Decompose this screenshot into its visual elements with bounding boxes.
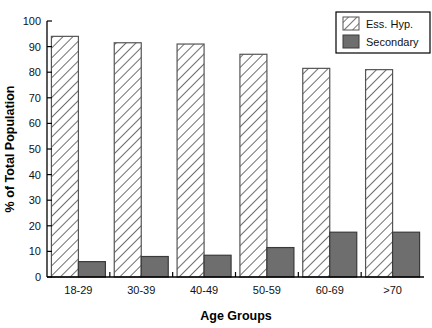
bar-secondary xyxy=(204,255,231,277)
bar-ess-hyp xyxy=(114,43,141,277)
bar-chart: 0102030405060708090100 18-2930-3940-4950… xyxy=(0,0,432,328)
y-tick-label: 100 xyxy=(23,15,41,27)
x-tick-label: 40-49 xyxy=(190,284,218,296)
y-axis-title: % of Total Population xyxy=(3,86,17,213)
bar-secondary xyxy=(330,232,357,277)
bar-ess-hyp xyxy=(51,36,78,277)
bar-secondary xyxy=(78,262,105,277)
y-tick-label: 90 xyxy=(29,41,41,53)
bar-ess-hyp xyxy=(240,54,267,277)
y-tick-label: 0 xyxy=(35,271,41,283)
x-axis-title: Age Groups xyxy=(200,309,272,323)
y-tick-label: 60 xyxy=(29,117,41,129)
legend-swatch-ess-hyp xyxy=(343,17,359,30)
y-tick-label: 10 xyxy=(29,245,41,257)
y-tick-label: 80 xyxy=(29,66,41,78)
y-tick-label: 20 xyxy=(29,220,41,232)
legend-label-ess-hyp: Ess. Hyp. xyxy=(366,18,413,30)
chart-canvas: 0102030405060708090100 18-2930-3940-4950… xyxy=(0,0,432,328)
x-tick-label: 30-39 xyxy=(127,284,155,296)
x-tick-label: 50-59 xyxy=(253,284,281,296)
bar-ess-hyp xyxy=(303,68,330,277)
y-tick-label: 50 xyxy=(29,143,41,155)
legend-swatch-secondary xyxy=(343,35,359,48)
legend: Ess. Hyp. Secondary xyxy=(336,12,430,53)
y-tick-label: 40 xyxy=(29,169,41,181)
bar-ess-hyp xyxy=(366,70,393,277)
bar-secondary xyxy=(267,248,294,277)
y-tick-label: 70 xyxy=(29,92,41,104)
legend-label-secondary: Secondary xyxy=(366,36,419,48)
x-tick-label: >70 xyxy=(383,284,402,296)
bar-ess-hyp xyxy=(177,44,204,277)
x-tick-label: 60-69 xyxy=(316,284,344,296)
y-tick-label: 30 xyxy=(29,194,41,206)
bar-secondary xyxy=(393,232,420,277)
x-tick-label: 18-29 xyxy=(64,284,92,296)
bar-secondary xyxy=(141,257,168,277)
